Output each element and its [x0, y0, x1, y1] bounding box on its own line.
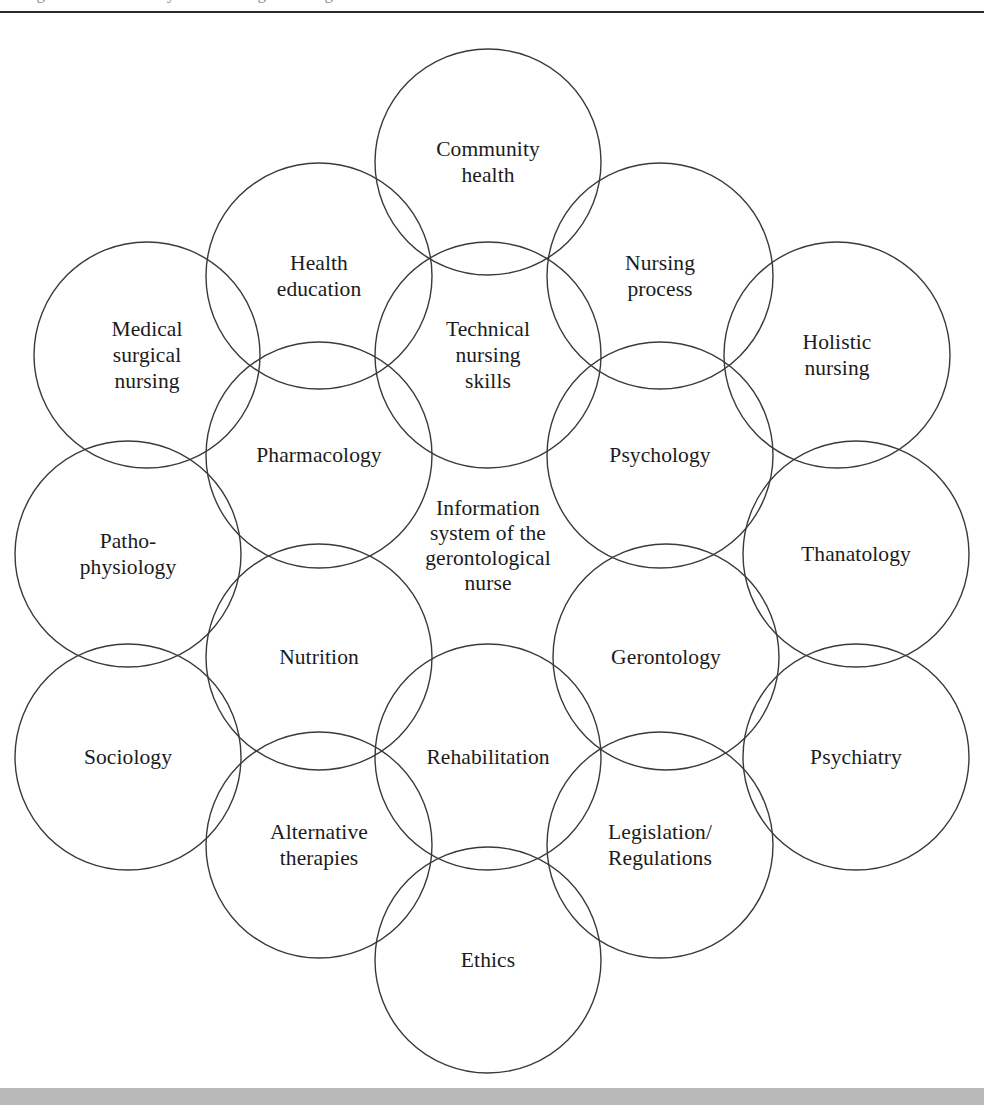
footer-gray-band [0, 1088, 984, 1105]
cropped-caption-remnant: Figure Information system of the geronto… [0, 0, 984, 9]
circle-alternative-therapies [206, 732, 432, 958]
circle-legislation-regulations [547, 732, 773, 958]
circles-svg-canvas [0, 14, 984, 1084]
circle-ethics [375, 847, 601, 1073]
circle-nursing-process [547, 163, 773, 389]
circle-rehabilitation [375, 644, 601, 870]
circle-community-health [375, 49, 601, 275]
top-rule-divider [0, 11, 984, 13]
circle-sociology [15, 644, 241, 870]
circle-health-education [206, 163, 432, 389]
circles-diagram: Community healthHealth educationNursing … [0, 14, 984, 1084]
circle-psychology [547, 342, 773, 568]
circle-technical-nursing-skills [375, 242, 601, 468]
circle-nutrition [206, 544, 432, 770]
circle-medical-surgical-nursing [34, 242, 260, 468]
figure-page: Figure Information system of the geronto… [0, 0, 984, 1110]
circle-holistic-nursing [724, 242, 950, 468]
